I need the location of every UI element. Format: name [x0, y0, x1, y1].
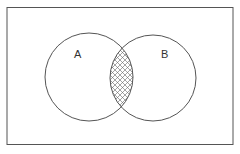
venn-diagram: A B — [0, 0, 240, 154]
set-a-label: A — [74, 48, 82, 60]
set-b-label: B — [161, 48, 168, 60]
